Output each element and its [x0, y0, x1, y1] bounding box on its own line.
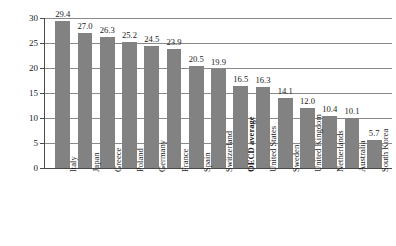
y-axis-line [44, 18, 45, 169]
x-axis-category-label: OECD average [245, 116, 257, 172]
x-axis-category-label: Sweden [290, 145, 302, 172]
x-axis-category-label: United States [267, 126, 279, 172]
gridline-30 [44, 18, 392, 19]
y-tick-label-25: 25 [22, 39, 38, 48]
y-tick-label-15: 15 [22, 89, 38, 98]
x-axis-category-label: Australia [356, 140, 368, 172]
x-axis-category-label: Spain [201, 152, 213, 172]
y-tick-label-0: 0 [22, 164, 38, 173]
bar-value-label: 14.1 [271, 87, 299, 96]
bar-value-label: 10.1 [338, 107, 366, 116]
x-axis-category-label: Germany [156, 140, 168, 172]
x-axis-category-label: South Korea [379, 129, 391, 172]
x-axis-category-label: Japan [90, 152, 102, 172]
y-tick-label-30: 30 [22, 14, 38, 23]
x-axis-category-label: Poland [134, 148, 146, 172]
bar-value-label: 23.9 [160, 38, 188, 47]
bar-chart: Percentage of government spending 051015… [0, 0, 396, 246]
x-axis-category-label: France [179, 149, 191, 172]
bar-value-label: 16.3 [249, 76, 277, 85]
x-axis-category-label: Netherlands [334, 130, 346, 172]
bar [55, 21, 70, 168]
y-tick-label-10: 10 [22, 114, 38, 123]
bar-value-label: 29.4 [49, 10, 77, 19]
y-tick-label-20: 20 [22, 64, 38, 73]
x-axis-category-label: United Kingdom [312, 114, 324, 172]
bar [78, 33, 93, 168]
y-tick-label-5: 5 [22, 139, 38, 148]
gridline-25 [44, 43, 392, 44]
x-axis-category-label: Greece [112, 148, 124, 172]
bar-value-label: 19.9 [205, 58, 233, 67]
x-axis-category-label: Switzerland [223, 131, 235, 172]
x-axis-category-label: Italy [67, 156, 79, 172]
